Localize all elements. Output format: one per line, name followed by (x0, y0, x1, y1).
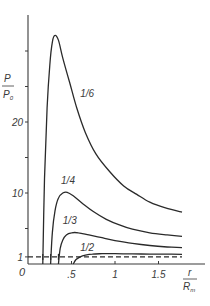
series-label: 1/3 (63, 215, 77, 226)
series-label: 1/4 (61, 175, 75, 186)
series-label: 1/2 (80, 242, 94, 253)
series-1-6: 1/6 (43, 35, 182, 264)
y-axis-label-denominator: P0 (3, 89, 14, 101)
x-axis-label: r Rm (183, 267, 197, 293)
curve-line (43, 35, 182, 264)
axis-labels: P P0 r Rm (2, 73, 197, 293)
x-tick-label: .5 (67, 269, 76, 280)
y-axis-label: P P0 (2, 73, 14, 101)
x-axis-label-denominator: Rm (183, 281, 195, 293)
series-label: 1/6 (80, 88, 94, 99)
origin-label: 0 (19, 266, 26, 278)
axes (28, 15, 205, 264)
x-tick-label: 1 (112, 269, 118, 280)
y-tick-label: 10 (12, 188, 24, 199)
x-tick-label: 1.5 (152, 269, 166, 280)
series-1-2: 1/2 (73, 242, 182, 264)
y-tick-label: 1 (17, 252, 23, 263)
chart-figure: 110200.511.5 1/61/41/31/2 P P0 r Rm (0, 0, 210, 306)
chart-canvas: 110200.511.5 1/61/41/31/2 P P0 r Rm (0, 0, 210, 306)
y-axis-label-numerator: P (4, 73, 11, 84)
x-axis-label-numerator: r (188, 267, 192, 278)
curve-line (73, 254, 182, 264)
y-tick-label: 20 (11, 117, 24, 128)
series-group: 1/61/41/31/2 (43, 35, 182, 264)
